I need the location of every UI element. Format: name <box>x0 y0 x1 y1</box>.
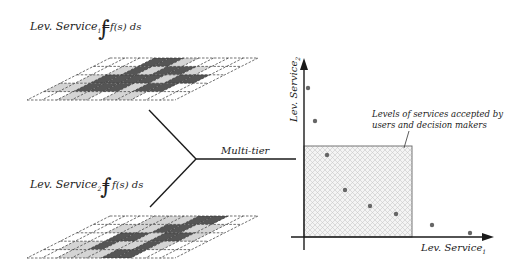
integral-icon: ∫ <box>98 16 110 41</box>
spatial-grid-bottom <box>27 216 258 258</box>
y-axis-label: Lev. Service2 <box>288 57 301 123</box>
data-point <box>468 231 472 235</box>
data-point <box>325 153 329 157</box>
data-point <box>306 86 310 90</box>
formula-top-lhs: Lev. Service <box>29 20 98 33</box>
multi-tier-label: Multi-tier <box>220 145 271 156</box>
y-axis-arrow-icon <box>300 58 308 70</box>
formula-bottom-integrand: f(s) ds <box>111 179 143 190</box>
x-axis-label: Lev. Service1 <box>420 242 486 255</box>
diagram-canvas: Lev. Service1= ∫ f(s) ds Multi-tier Lev.… <box>0 0 517 273</box>
formula-bottom-lhs: Lev. Service <box>29 178 98 191</box>
integral-icon: ∫ <box>100 174 112 199</box>
data-point <box>368 204 372 208</box>
spatial-grid-top <box>27 58 258 100</box>
multi-tier-junction <box>149 110 296 207</box>
data-point <box>313 119 317 123</box>
data-point <box>343 188 347 192</box>
formula-top-integrand: f(s) ds <box>109 21 141 32</box>
data-point <box>394 212 398 216</box>
annotation-line-1: Levels of services accepted by <box>371 109 503 119</box>
annotation-line-2: users and decision makers <box>372 120 487 130</box>
annotation-leader <box>404 131 409 148</box>
data-point <box>430 223 434 227</box>
svg-text:Lev. Service2=: Lev. Service2= <box>29 178 110 192</box>
x-axis-arrow-icon <box>482 233 494 241</box>
acceptance-plot: Levels of services accepted by users and… <box>288 57 503 255</box>
acceptance-region <box>304 146 412 237</box>
formula-bottom: Lev. Service2= ∫ f(s) ds <box>29 174 143 199</box>
formula-top: Lev. Service1= ∫ f(s) ds <box>29 16 141 41</box>
